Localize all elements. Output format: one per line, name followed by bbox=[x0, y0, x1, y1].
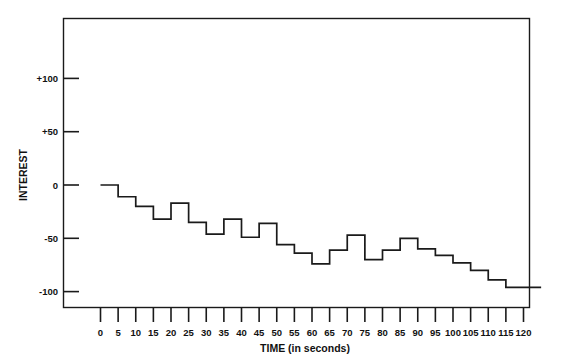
y-axis-ticks bbox=[64, 78, 80, 291]
x-axis-ticks bbox=[101, 308, 524, 323]
chart-container: +100+500-50-100 051015202530354045505560… bbox=[0, 0, 583, 362]
x-axis-tick-label: 70 bbox=[342, 327, 353, 338]
x-axis-tick-label: 20 bbox=[166, 327, 177, 338]
x-axis-tick-label: 75 bbox=[360, 327, 371, 338]
x-axis-tick-label: 10 bbox=[130, 327, 141, 338]
x-axis-tick-label: 110 bbox=[481, 327, 496, 338]
x-axis-tick-label: 100 bbox=[445, 327, 461, 338]
y-axis-tick-label: +50 bbox=[42, 126, 58, 137]
x-axis-tick-label: 120 bbox=[516, 327, 532, 338]
plot-frame bbox=[64, 19, 530, 308]
y-axis-tick-labels: +100+500-50-100 bbox=[37, 73, 58, 297]
x-axis-tick-label: 5 bbox=[115, 327, 121, 338]
x-axis-tick-label: 105 bbox=[463, 327, 480, 338]
x-axis-tick-label: 0 bbox=[98, 327, 103, 338]
x-axis-tick-label: 45 bbox=[254, 327, 265, 338]
x-axis-tick-label: 115 bbox=[498, 327, 514, 338]
x-axis-tick-label: 80 bbox=[377, 327, 388, 338]
x-axis-tick-label: 30 bbox=[201, 327, 212, 338]
y-axis-tick-label: 0 bbox=[53, 180, 58, 191]
y-axis-tick-label: -50 bbox=[44, 233, 58, 244]
x-axis-tick-label: 40 bbox=[236, 327, 247, 338]
y-axis-tick-label: +100 bbox=[37, 73, 58, 84]
y-axis-tick-label: -100 bbox=[39, 286, 58, 297]
x-axis-tick-label: 15 bbox=[148, 327, 159, 338]
x-axis-title: TIME (in seconds) bbox=[260, 342, 350, 354]
x-axis-tick-label: 25 bbox=[183, 327, 194, 338]
x-axis-tick-label: 60 bbox=[307, 327, 318, 338]
x-axis-tick-label: 65 bbox=[324, 327, 335, 338]
x-axis-tick-label: 55 bbox=[289, 327, 300, 338]
x-axis-tick-labels: 0510152025303540455055606570758085909510… bbox=[98, 327, 532, 338]
y-axis-title: INTEREST bbox=[17, 148, 29, 201]
step-chart: +100+500-50-100 051015202530354045505560… bbox=[0, 0, 583, 362]
x-axis-tick-label: 50 bbox=[271, 327, 282, 338]
x-axis-tick-label: 95 bbox=[430, 327, 441, 338]
x-axis-tick-label: 35 bbox=[219, 327, 230, 338]
x-axis-tick-label: 90 bbox=[412, 327, 423, 338]
data-series-interest bbox=[101, 185, 542, 287]
x-axis-tick-label: 85 bbox=[395, 327, 406, 338]
